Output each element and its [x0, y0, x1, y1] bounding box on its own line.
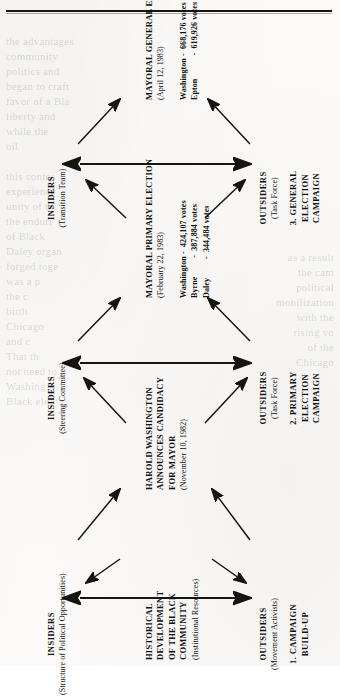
arrow-outsiders3-to-general — [208, 99, 250, 144]
outsiders-1-subtitle: (Movement Activists) — [269, 559, 280, 699]
arrow-historical-to-outsiders1 — [212, 559, 246, 583]
event-announcement-heading: HAROLD WASHINGTON ANNOUNCES CANDIDACY FO… — [144, 377, 177, 490]
event-primary-meta: (February 22, 1983) — [155, 148, 166, 298]
outsiders-3-title: OUTSIDERS — [258, 171, 268, 224]
arrow-outsiders2-to-primary — [208, 298, 250, 341]
event-primary-heading: MAYORAL PRIMARY ELECTION — [144, 159, 154, 298]
event-primary: MAYORAL PRIMARY ELECTION (February 22, 1… — [132, 148, 212, 298]
event-announcement-meta: (November 10, 1982) — [178, 370, 189, 490]
insiders-2-subtitle: (Steering Committee) — [57, 323, 68, 473]
insiders-1-subtitle: (Structure of Political Opportunities) — [57, 559, 68, 699]
phase-3-label: 3. GENERAL ELECTION CAMPAIGN — [288, 123, 323, 273]
insiders-1-title: INSIDERS — [46, 612, 56, 656]
insiders-1: INSIDERS (Structure of Political Opportu… — [46, 559, 68, 699]
arrow-insiders1-to-announcement — [78, 489, 120, 540]
insiders-3-title: INSIDERS — [46, 176, 56, 220]
outsiders-2: OUTSIDERS (Task Force) — [258, 323, 280, 473]
event-general-meta: (April 12, 1983) — [155, 0, 166, 100]
phase-2-label: 2. PRIMARY ELECTION CAMPAIGN — [288, 323, 323, 473]
outsiders-1: OUTSIDERS (Movement Activists) — [258, 559, 280, 699]
event-general-results: Washington - 668,176 votes Epton - 619,9… — [179, 2, 200, 100]
outsiders-3: OUTSIDERS (Task Force) — [258, 123, 280, 273]
outsiders-1-title: OUTSIDERS — [258, 607, 268, 660]
phase-1-label: 1. CAMPAIGN BUILD-UP — [288, 559, 311, 699]
arrow-insiders2-to-primary — [78, 298, 120, 341]
event-primary-results: Washington - 424,107 votes Byrne - 387,8… — [179, 200, 211, 298]
outsiders-3-subtitle: (Task Force) — [269, 123, 280, 273]
arrow-announcement-to-insiders2 — [84, 378, 126, 423]
insiders-2-title: INSIDERS — [46, 376, 56, 420]
arrow-historical-to-insiders1 — [86, 559, 120, 583]
event-announcement: HAROLD WASHINGTON ANNOUNCES CANDIDACY FO… — [132, 370, 201, 490]
arrow-insiders3-to-general — [78, 99, 120, 144]
arrow-outsiders1-to-announcement — [212, 489, 250, 540]
insiders-3-subtitle: (Transition Team) — [57, 123, 68, 273]
event-general-heading: MAYORAL GENERAL ELECTION — [144, 0, 154, 100]
outsiders-2-title: OUTSIDERS — [258, 371, 268, 424]
event-general: MAYORAL GENERAL ELECTION (April 12, 1983… — [132, 0, 201, 100]
arrow-announcement-to-outsiders2 — [205, 378, 247, 423]
event-historical-meta: (Institutional Resources) — [190, 560, 201, 660]
arrow-primary-to-insiders3 — [86, 180, 126, 218]
insiders-2: INSIDERS (Steering Committee) — [46, 323, 68, 473]
event-historical: HISTORICAL DEVELOPMENT OF THE BLACK COMM… — [132, 560, 212, 660]
event-historical-heading: HISTORICAL DEVELOPMENT OF THE BLACK COMM… — [144, 591, 189, 660]
outsiders-2-subtitle: (Task Force) — [269, 323, 280, 473]
insiders-3: INSIDERS (Transition Team) — [46, 123, 68, 273]
